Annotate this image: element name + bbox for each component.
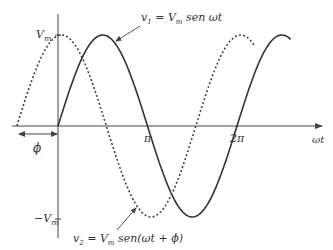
phase-label: ϕ [33,141,41,155]
vm-label: Vm [36,28,52,43]
neg-vm-label: −Vm [34,212,59,227]
pi-tick-label: π [143,132,152,145]
v1-pointer [116,26,140,41]
two-pi-tick-label: 2π [229,132,245,145]
phase-shift-diagram: ϕ π 2π ωt Vm −Vm v1 = Vm sen ωt v2 = Vm … [0,0,333,250]
v2-pointer [117,208,136,230]
x-axis-label: ωt [312,134,325,145]
v1-label: v1 = Vm sen ωt [141,11,223,26]
v2-label: v2 = Vm sen(ωt + ϕ) [73,232,183,247]
